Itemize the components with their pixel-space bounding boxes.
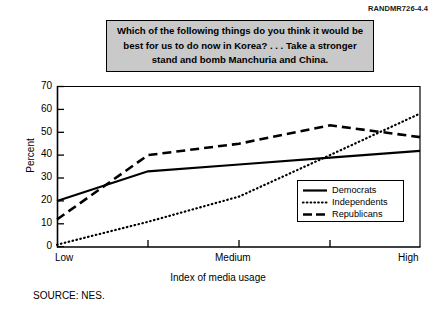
- legend-item-independents: Independents: [302, 196, 399, 208]
- y-tick-label-60: 60: [26, 103, 52, 114]
- line-chart-plot: [0, 0, 436, 314]
- x-axis-label: Index of media usage: [0, 272, 436, 283]
- legend-line-solid-icon: [302, 185, 328, 196]
- legend-item-republicans: Republicans: [302, 208, 399, 220]
- x-axis-ticks: [148, 240, 330, 247]
- x-tick-label-low: Low: [55, 252, 73, 263]
- y-tick-label-70: 70: [26, 80, 52, 91]
- x-tick-label-medium: Medium: [215, 252, 251, 263]
- legend-label-democrats: Democrats: [332, 185, 376, 195]
- chart-legend: Democrats Independents Republicans: [297, 180, 404, 222]
- y-axis-label: Percent: [25, 116, 36, 196]
- y-tick-label-0: 0: [26, 240, 52, 251]
- figure-panel: RANDMR726-4.4 Which of the following thi…: [0, 0, 436, 314]
- legend-line-dotted-icon: [302, 197, 328, 208]
- legend-label-republicans: Republicans: [332, 209, 383, 219]
- source-note: SOURCE: NES.: [33, 290, 105, 301]
- legend-item-democrats: Democrats: [302, 184, 399, 196]
- chart-axes: [57, 86, 421, 248]
- y-tick-label-20: 20: [26, 194, 52, 205]
- legend-line-dashed-icon: [302, 209, 328, 220]
- y-tick-label-10: 10: [26, 217, 52, 228]
- x-tick-label-high: High: [398, 252, 419, 263]
- legend-label-independents: Independents: [332, 197, 388, 207]
